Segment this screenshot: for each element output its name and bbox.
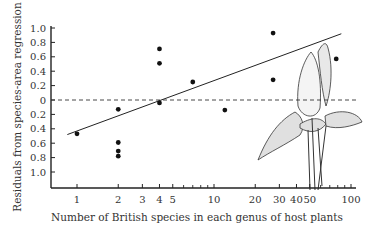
x-tick-label: 4	[156, 194, 162, 205]
x-tick-label: 3	[139, 194, 145, 205]
data-point	[75, 131, 80, 136]
y-tick-label: 1.0	[30, 167, 46, 178]
data-point	[271, 77, 276, 82]
data-point	[271, 31, 276, 36]
y-tick-label: 0.6	[30, 51, 46, 62]
x-ticks: 123451020304050100	[74, 184, 361, 205]
data-point	[116, 140, 121, 145]
data-point	[222, 108, 227, 113]
x-tick-label: 20	[249, 194, 262, 205]
data-point	[116, 107, 121, 112]
y-tick-label: 0	[40, 95, 46, 106]
data-point	[116, 154, 121, 159]
y-tick-label: 0.2	[30, 109, 46, 120]
y-tick-label: 0.8	[30, 37, 46, 48]
data-point	[334, 57, 339, 62]
x-tick-label: 50	[303, 194, 316, 205]
data-point	[157, 46, 162, 51]
x-tick-label: 1	[74, 194, 80, 205]
data-point	[116, 149, 121, 154]
data-point	[157, 100, 162, 105]
host-plant-illustration	[258, 44, 362, 190]
x-tick-label: 30	[273, 194, 286, 205]
x-tick-label: 40	[290, 194, 303, 205]
x-tick-label: 5	[170, 194, 176, 205]
y-tick-label: 0.8	[30, 152, 46, 163]
y-tick-label: 0.6	[30, 138, 46, 149]
y-axis-title: Residuals from species-area regression	[11, 2, 23, 212]
x-tick-label: 100	[341, 194, 360, 205]
data-point	[157, 61, 162, 66]
y-tick-label: 0.4	[30, 123, 46, 134]
y-tick-label: 1.0	[30, 23, 46, 34]
data-point	[190, 80, 195, 85]
x-tick-label: 2	[115, 194, 121, 205]
y-tick-label: 0.2	[30, 80, 46, 91]
x-axis-title: Number of British species in each genus …	[51, 211, 343, 223]
y-tick-label: 0.4	[30, 66, 46, 77]
scatter-chart: 1.00.80.60.40.200.20.40.60.81.0 12345102…	[0, 0, 376, 230]
x-tick-label: 10	[208, 194, 221, 205]
